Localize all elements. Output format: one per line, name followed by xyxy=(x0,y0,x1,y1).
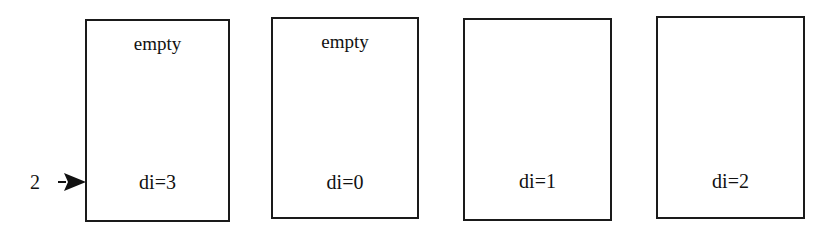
pointer-label: 2 xyxy=(30,171,40,194)
buffer-box-2: di=1 xyxy=(463,18,612,221)
box-bottom-label: di=2 xyxy=(658,170,803,193)
box-top-label: empty xyxy=(87,33,228,55)
buffer-box-1: empty di=0 xyxy=(271,17,419,219)
buffer-box-3: di=2 xyxy=(656,16,805,219)
box-bottom-label: di=3 xyxy=(87,171,228,194)
buffer-box-0: empty di=3 xyxy=(85,19,230,222)
box-bottom-label: di=0 xyxy=(273,171,417,194)
box-top-label: empty xyxy=(273,31,417,53)
arrow-right-icon xyxy=(56,170,88,194)
box-bottom-label: di=1 xyxy=(465,170,610,193)
